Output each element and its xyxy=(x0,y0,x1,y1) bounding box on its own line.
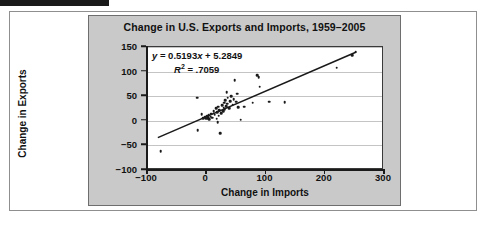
regression-equation: y = 0.5193x + 5.2849 xyxy=(152,50,302,61)
regression-annotation: y = 0.5193x + 5.2849 R2 = .7059 xyxy=(152,50,302,75)
r-squared-value: = .7059 xyxy=(185,64,220,75)
y-axis-label: Change in Exports xyxy=(17,54,28,174)
r-squared-label: R2 = .7059 xyxy=(152,63,302,75)
r-symbol: R xyxy=(174,64,181,75)
x-axis-label: Change in Imports xyxy=(146,187,384,198)
equation-tail: + 5.2849 xyxy=(202,50,242,61)
equation-eq: = 0.5193 xyxy=(157,50,197,61)
